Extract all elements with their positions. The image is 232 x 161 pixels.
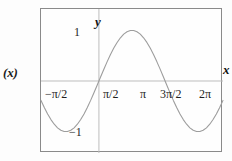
- function-label: (x): [3, 65, 18, 81]
- plot-area: y 1 −1 −π/2 π/2 π 3π/2 2π: [41, 9, 221, 151]
- x-tick-label-pi: π: [140, 88, 146, 100]
- sine-graph-figure: (x) y 1 −1 −π/2 π/2 π 3π/2 2π x: [0, 0, 232, 161]
- plot-frame: y 1 −1 −π/2 π/2 π 3π/2 2π: [40, 8, 222, 152]
- x-tick-label-two-pi: 2π: [199, 88, 211, 100]
- y-axis-label: y: [95, 15, 101, 28]
- x-tick-label-minus-half-pi: −π/2: [45, 88, 67, 100]
- x-axis-label: x: [223, 63, 230, 76]
- x-tick-label-half-pi: π/2: [103, 88, 118, 100]
- x-tick-label-three-half-pi: 3π/2: [160, 88, 181, 100]
- y-tick-label-minus-1: −1: [69, 126, 82, 138]
- y-tick-label-1: 1: [74, 26, 80, 38]
